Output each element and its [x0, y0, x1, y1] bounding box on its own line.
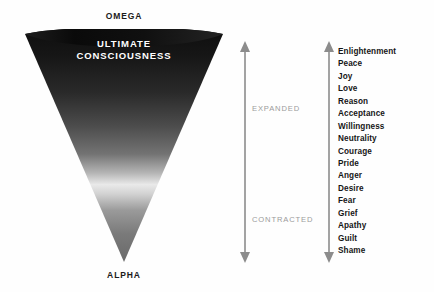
level-item: Love	[338, 83, 434, 95]
level-item: Peace	[338, 58, 434, 70]
levels-scale-arrow	[323, 41, 335, 263]
level-item: Joy	[338, 71, 434, 83]
expanded-band-label: EXPANDED	[252, 104, 300, 113]
level-item: Neutrality	[338, 133, 434, 145]
level-item: Acceptance	[338, 108, 434, 120]
level-item: Grief	[338, 208, 434, 220]
contracted-band-label: CONTRACTED	[252, 215, 313, 224]
cone-shape-icon	[24, 29, 224, 264]
level-item: Reason	[338, 96, 434, 108]
level-item: Guilt	[338, 233, 434, 245]
alpha-label: ALPHA	[24, 270, 224, 280]
expansion-axis-arrow	[239, 41, 251, 263]
consciousness-cone: ULTIMATE CONSCIOUSNESS	[24, 29, 224, 264]
level-item: Desire	[338, 183, 434, 195]
level-item: Pride	[338, 158, 434, 170]
double-arrow-icon	[323, 41, 335, 263]
double-arrow-icon	[239, 41, 251, 263]
level-item: Shame	[338, 245, 434, 257]
level-item: Fear	[338, 195, 434, 207]
level-item: Apathy	[338, 220, 434, 232]
level-item: Courage	[338, 146, 434, 158]
omega-label: OMEGA	[24, 11, 224, 21]
diagram-canvas: OMEGA	[0, 0, 434, 292]
level-item: Anger	[338, 170, 434, 182]
levels-list: EnlightenmentPeaceJoyLoveReasonAcceptanc…	[338, 46, 434, 257]
level-item: Enlightenment	[338, 46, 434, 58]
level-item: Willingness	[338, 121, 434, 133]
